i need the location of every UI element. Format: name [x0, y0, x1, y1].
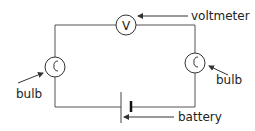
- voltmeter-symbol: V: [122, 19, 131, 33]
- bulb-left-label: bulb: [16, 87, 42, 101]
- battery-label: battery: [178, 110, 222, 124]
- circuit-diagram: V voltmeter bulb bulb battery: [0, 0, 255, 131]
- battery: [121, 92, 131, 123]
- circuit-wires: [55, 25, 195, 107]
- bulb-left-pointer-arrow: [18, 73, 43, 83]
- voltmeter-label: voltmeter: [191, 9, 250, 23]
- bulb-right: [185, 53, 205, 73]
- bulb-left: [45, 57, 65, 77]
- bulb-right-circle: [185, 53, 205, 73]
- bulb-left-circle: [45, 57, 65, 77]
- bulb-right-label: bulb: [216, 73, 242, 87]
- voltmeter: V: [116, 15, 136, 35]
